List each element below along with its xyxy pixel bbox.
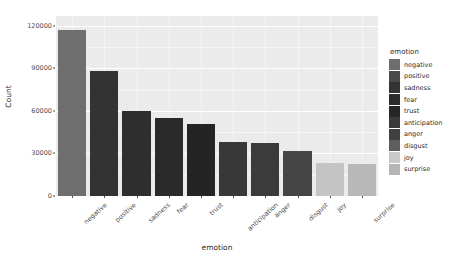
bar-disgust <box>283 151 311 196</box>
x-tick-label-disgust: disgust <box>307 201 330 223</box>
legend-swatch-sadness <box>389 82 400 93</box>
legend-item-surprise: surprise <box>389 163 467 175</box>
legend-label: positive <box>404 72 430 80</box>
legend-item-negative: negative <box>389 59 467 71</box>
legend-label: negative <box>404 61 432 69</box>
legend-item-trust: trust <box>389 105 467 117</box>
legend-item-fear: fear <box>389 94 467 106</box>
x-tick-mark <box>201 196 202 198</box>
legend-label: joy <box>404 154 414 162</box>
legend-item-anticipation: anticipation <box>389 117 467 129</box>
bar-negative <box>58 30 86 196</box>
legend-label: surprise <box>404 165 430 173</box>
x-tick-mark <box>233 196 234 198</box>
legend-swatch-surprise <box>389 164 400 175</box>
bar-anticipation <box>219 142 247 196</box>
y-tick-label: 0 <box>48 192 52 200</box>
legend-title: emotion <box>390 48 467 56</box>
x-tick-label-negative: negative <box>82 201 108 226</box>
legend-swatch-disgust <box>389 140 400 151</box>
legend-item-disgust: disgust <box>389 140 467 152</box>
y-tick-label: 120000 <box>27 22 52 30</box>
x-tick-label-surprise: surprise <box>372 201 397 224</box>
x-tick-mark <box>265 196 266 198</box>
y-tick-mark <box>53 68 55 69</box>
x-tick-mark <box>298 196 299 198</box>
bar-anger <box>251 143 279 196</box>
bar-positive <box>90 71 118 196</box>
legend-label: sadness <box>404 84 430 92</box>
legend-swatch-joy <box>389 152 400 163</box>
x-axis-title: emotion <box>56 243 378 252</box>
y-tick-mark <box>53 153 55 154</box>
legend-swatch-positive <box>389 71 400 82</box>
legend-swatch-anticipation <box>389 117 400 128</box>
x-tick-mark <box>362 196 363 198</box>
chart-root: 0300006000090000120000 Count negativepos… <box>0 0 470 263</box>
x-tick-label-positive: positive <box>114 201 138 224</box>
legend-label: trust <box>404 107 419 115</box>
bar-series <box>56 16 378 196</box>
y-tick-label: 60000 <box>31 107 52 115</box>
x-tick-mark <box>137 196 138 198</box>
legend-label: fear <box>404 96 417 104</box>
bar-joy <box>316 163 344 196</box>
y-tick-mark <box>53 110 55 111</box>
x-tick-mark <box>169 196 170 198</box>
y-tick-mark <box>53 25 55 26</box>
legend-items: negativepositivesadnessfeartrustanticipa… <box>389 59 467 175</box>
legend-swatch-trust <box>389 106 400 117</box>
bar-sadness <box>122 111 150 196</box>
y-tick-label: 90000 <box>31 64 52 72</box>
x-tick-mark <box>104 196 105 198</box>
x-tick-label-sadness: sadness <box>146 201 171 225</box>
bar-fear <box>155 118 183 196</box>
x-tick-mark <box>72 196 73 198</box>
x-tick-label-joy: joy <box>335 201 348 213</box>
x-axis: negativepositivesadnessfeartrustanticipa… <box>56 196 378 240</box>
bar-surprise <box>348 164 376 196</box>
legend-swatch-anger <box>389 129 400 140</box>
legend-item-anger: anger <box>389 129 467 141</box>
x-tick-mark <box>330 196 331 198</box>
y-axis-title: Count <box>4 67 13 127</box>
plot-panel <box>56 16 378 196</box>
legend-label: anger <box>404 130 423 138</box>
x-tick-label-trust: trust <box>208 201 225 217</box>
legend: emotion negativepositivesadnessfeartrust… <box>389 48 467 175</box>
legend-label: anticipation <box>404 119 442 127</box>
x-tick-label-fear: fear <box>175 201 190 216</box>
legend-swatch-negative <box>389 59 400 70</box>
y-tick-mark <box>53 196 55 197</box>
bar-trust <box>187 124 215 196</box>
legend-item-sadness: sadness <box>389 82 467 94</box>
legend-item-positive: positive <box>389 71 467 83</box>
legend-item-joy: joy <box>389 152 467 164</box>
legend-swatch-fear <box>389 94 400 105</box>
y-tick-label: 30000 <box>31 149 52 157</box>
legend-label: disgust <box>404 142 428 150</box>
